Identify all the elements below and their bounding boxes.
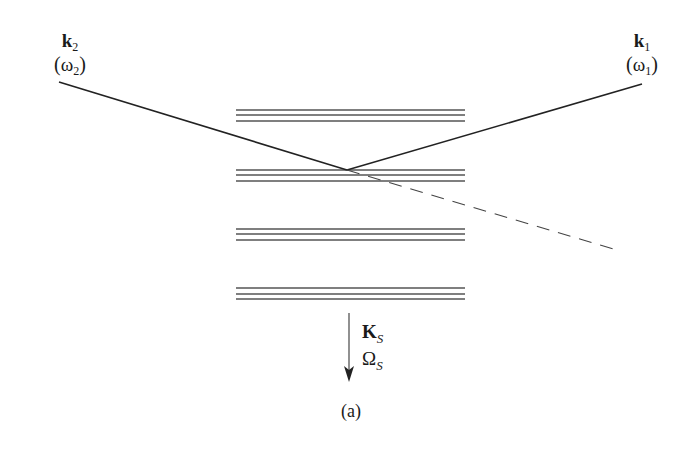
scatter-frequency-symbol: Ω <box>362 348 376 369</box>
wave1-frequency-symbol: ω <box>633 54 646 75</box>
scatter-frequency-label: ΩS <box>362 349 383 372</box>
wave1-vector-symbol: k <box>634 30 645 51</box>
open-paren: ( <box>626 53 633 75</box>
incident-wave-k2-line <box>59 82 347 170</box>
wave2-vector-label: k2 <box>40 31 100 53</box>
scatter-vector-subscript: S <box>377 331 384 346</box>
incident-wave-k1-line <box>347 84 642 170</box>
wave2-frequency-label: (ω2) <box>40 54 100 77</box>
wave2-frequency-symbol: ω <box>61 54 74 75</box>
scatter-vector-label: KS <box>362 322 383 345</box>
close-paren: ) <box>651 53 658 75</box>
diagram-canvas <box>0 0 697 459</box>
scatter-label: KS ΩS <box>362 322 383 372</box>
transmitted-dashed-line <box>347 170 617 250</box>
close-paren: ) <box>79 53 86 75</box>
wave1-vector-label: k1 <box>612 31 672 53</box>
figure-caption: (a) <box>326 402 376 420</box>
scatter-frequency-subscript: S <box>376 358 383 373</box>
wave1-frequency-label: (ω1) <box>612 54 672 77</box>
wave2-label: k2 (ω2) <box>40 31 100 77</box>
wave1-label: k1 (ω1) <box>612 31 672 77</box>
grating-layers <box>236 110 465 299</box>
wave2-vector-subscript: 2 <box>72 40 78 54</box>
scatter-vector-symbol: K <box>362 321 377 342</box>
wave2-vector-symbol: k <box>62 30 73 51</box>
wave1-vector-subscript: 1 <box>644 40 650 54</box>
open-paren: ( <box>54 53 61 75</box>
